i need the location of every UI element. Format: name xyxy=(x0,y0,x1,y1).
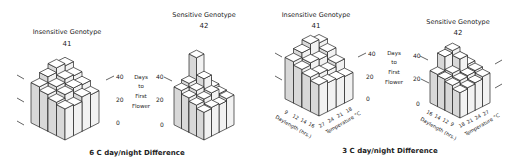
ytick-mark xyxy=(17,98,24,102)
svg-text:16: 16 xyxy=(308,121,317,129)
bar-3d xyxy=(57,105,66,140)
chart-title-41-6c: Insensitive Genotype xyxy=(33,28,102,36)
svg-text:Days: Days xyxy=(387,50,401,57)
bar-3d xyxy=(302,73,311,112)
bar-3d xyxy=(460,89,468,118)
chart-id-41-6c: 41 xyxy=(63,40,72,48)
ylabel-6c: Days to First Flower xyxy=(132,74,151,109)
ytick-0-42-3c: 0 xyxy=(416,100,420,107)
figure-canvas: Insensitive Genotype 41 40 20 0 Days to … xyxy=(0,0,521,162)
svg-text:Flower: Flower xyxy=(132,103,151,109)
bar-3d xyxy=(219,101,227,132)
svg-text:12: 12 xyxy=(292,113,301,121)
svg-text:9: 9 xyxy=(284,109,290,116)
bar-3d xyxy=(468,84,476,114)
svg-text:18: 18 xyxy=(345,105,354,113)
bar-3d xyxy=(65,105,74,140)
svg-text:21: 21 xyxy=(336,110,345,118)
caption-3c: 3 C day/night Difference xyxy=(342,147,438,155)
svg-text:to: to xyxy=(138,83,144,89)
bar-3d xyxy=(294,65,303,107)
ytick-40-41-6c: 40 xyxy=(116,73,124,80)
bar-3d xyxy=(212,104,220,137)
ytick-20-42-6c: 20 xyxy=(156,96,164,103)
zlabel-42-3c: Temperature °C xyxy=(463,112,502,138)
bar-3d xyxy=(174,87,182,129)
ytick-mark xyxy=(495,60,502,64)
chart-title-41-3c: Insensitive Genotype xyxy=(282,11,351,19)
ytick-0-42-6c: 0 xyxy=(160,121,164,128)
caption-6c: 6 C day/night Difference xyxy=(89,149,185,157)
svg-text:14: 14 xyxy=(300,117,309,125)
ytick-mark xyxy=(275,53,282,57)
bar-3d xyxy=(475,79,483,110)
bar-3d xyxy=(319,81,328,116)
bar-3d xyxy=(40,90,49,131)
ytick-0-41-3c: 0 xyxy=(366,95,370,102)
svg-text:24: 24 xyxy=(327,115,336,123)
chart-id-42-6c: 42 xyxy=(200,22,209,30)
ytick-0-41-6c: 0 xyxy=(116,119,120,126)
chart-id-41-3c: 41 xyxy=(312,22,321,30)
ytick-mark xyxy=(17,75,24,79)
ytick-40-42-3c: 40 xyxy=(413,52,421,59)
bar-3d xyxy=(311,81,320,116)
ylabel-3c: Days to First Flower xyxy=(385,50,404,85)
bar-3d xyxy=(82,93,91,132)
bar-3d xyxy=(430,71,438,107)
svg-text:18: 18 xyxy=(458,120,467,128)
panel-3c: Insensitive Genotype 41 40 20 0 Days to … xyxy=(274,11,502,155)
ytick-mark xyxy=(495,84,502,88)
svg-text:21: 21 xyxy=(466,116,475,124)
svg-text:27: 27 xyxy=(482,108,491,116)
svg-text:Days: Days xyxy=(134,74,148,81)
bar-3d xyxy=(438,76,446,111)
svg-text:16: 16 xyxy=(426,109,435,117)
ytick-20-42-3c: 20 xyxy=(413,75,421,82)
bar3d-chart-41-6c xyxy=(31,57,99,140)
ytick-20-41-3c: 20 xyxy=(366,73,374,80)
bar-3d xyxy=(336,76,345,108)
svg-text:12: 12 xyxy=(442,117,451,125)
svg-text:9: 9 xyxy=(450,121,456,128)
bar-3d xyxy=(197,109,205,140)
ytick-20-41-6c: 20 xyxy=(116,96,124,103)
ytick-mark xyxy=(106,76,114,80)
ytick-40-41-3c: 40 xyxy=(368,50,376,57)
bar-3d xyxy=(189,101,197,136)
svg-text:24: 24 xyxy=(474,112,483,120)
ytick-mark xyxy=(421,79,429,83)
bar-3d xyxy=(453,89,461,118)
ytick-40-42-6c: 40 xyxy=(156,73,164,80)
bar-3d xyxy=(48,98,57,136)
bar-3d xyxy=(204,109,212,140)
svg-text:Flower: Flower xyxy=(385,79,404,85)
bar-3d xyxy=(445,82,453,115)
svg-text:27: 27 xyxy=(318,120,327,128)
bar3d-chart-42-3c xyxy=(430,43,490,118)
bar3d-chart-42-6c xyxy=(174,50,234,140)
chart-id-42-3c: 42 xyxy=(454,29,463,37)
bar-3d xyxy=(182,94,190,132)
chart-title-42-6c: Sensitive Genotype xyxy=(172,11,235,19)
ytick-mark xyxy=(358,53,366,57)
bar-3d xyxy=(285,57,294,103)
ytick-mark xyxy=(164,77,172,81)
bar-3d xyxy=(91,91,100,128)
bar3d-chart-41-3c xyxy=(285,34,353,116)
svg-text:First: First xyxy=(388,69,400,75)
ytick-mark xyxy=(420,56,428,60)
ytick-mark xyxy=(275,76,282,80)
svg-text:14: 14 xyxy=(434,113,443,121)
bar-3d xyxy=(31,83,40,128)
bar-3d xyxy=(483,73,491,107)
bar-3d xyxy=(227,95,235,129)
panel-6c: Insensitive Genotype 41 40 20 0 Days to … xyxy=(17,11,236,157)
svg-text:First: First xyxy=(135,93,147,99)
chart-title-42-3c: Sensitive Genotype xyxy=(426,18,489,26)
ytick-mark xyxy=(17,121,24,125)
bar-3d xyxy=(328,79,337,112)
svg-text:to: to xyxy=(391,59,397,65)
bar-3d xyxy=(345,72,354,103)
bar-3d xyxy=(74,102,83,136)
